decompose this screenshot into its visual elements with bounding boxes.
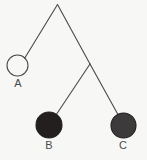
mass-label-a: A [14,77,22,89]
mass-circle-c [111,113,136,138]
diagram-canvas: ABC [0,0,147,160]
mobile-diagram-figure: ABC [0,0,147,160]
mass-label-c: C [119,139,127,151]
mass-label-b: B [45,139,52,151]
mass-circle-b [36,112,62,138]
